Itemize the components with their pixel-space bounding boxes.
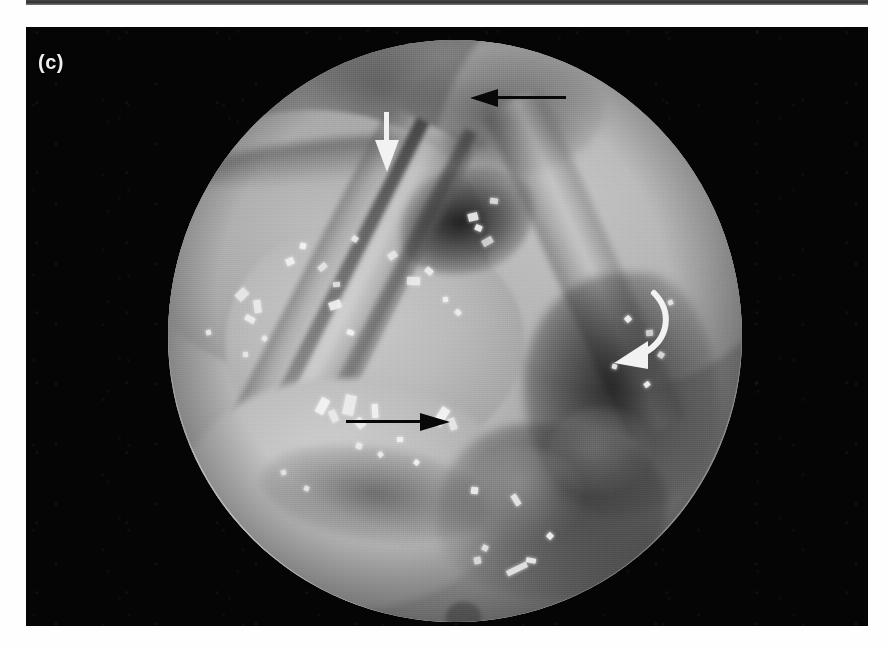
arrow-white-curved-svg bbox=[586, 277, 686, 387]
arrow-black-top-head bbox=[470, 89, 498, 107]
figure-panel-c: (c) bbox=[26, 27, 868, 626]
figure-page: (c) bbox=[0, 0, 890, 647]
arrow-black-top bbox=[470, 88, 566, 108]
panel-label: (c) bbox=[38, 51, 64, 74]
arrow-black-bottom bbox=[346, 412, 452, 432]
arrow-black-bottom-shaft bbox=[346, 420, 422, 423]
arrow-black-bottom-head bbox=[420, 413, 450, 431]
previous-panel-edge bbox=[26, 0, 868, 5]
arrow-white-top bbox=[374, 112, 400, 174]
arrow-black-top-shaft bbox=[492, 96, 566, 99]
arrow-white-curved bbox=[586, 277, 686, 387]
arrow-white-top-head bbox=[375, 140, 399, 172]
